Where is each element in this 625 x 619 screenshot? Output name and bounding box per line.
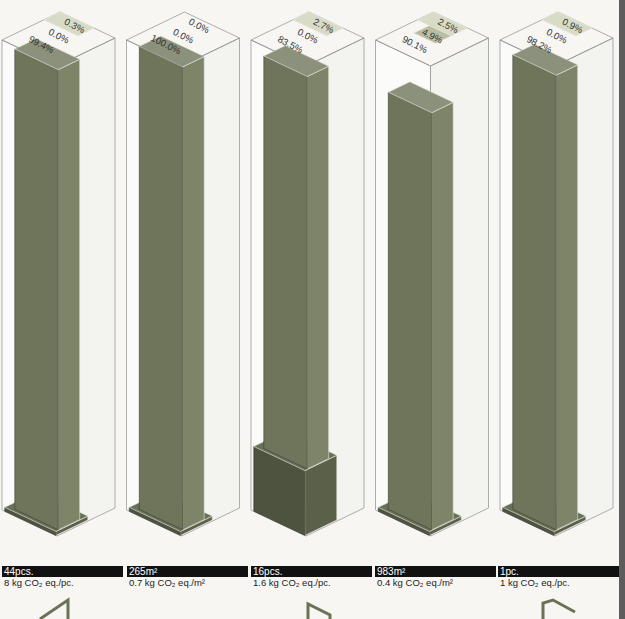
column-5: 0.9%98.2%0.0%0.9%	[500, 12, 613, 536]
main-segment-left-face	[513, 55, 556, 530]
window-frame-icon	[40, 600, 68, 619]
main-segment-right-face	[556, 65, 577, 530]
quantity-label: 265m²	[127, 566, 248, 577]
quantity-label: 16pcs.	[251, 566, 372, 577]
main-segment	[388, 82, 453, 530]
door-icon	[308, 604, 330, 619]
panel-icon	[543, 600, 575, 619]
emission-factor-label: 0.7 kg CO₂ eq./m²	[127, 577, 248, 589]
quantity-label: 44pcs.	[2, 566, 123, 577]
column-3: 13.8%83.5%0.0%2.7%	[251, 12, 364, 536]
main-segment	[15, 39, 80, 530]
main-segment	[513, 44, 578, 530]
main-segment-right-face	[58, 59, 79, 530]
quantity-label: 983m²	[375, 566, 496, 577]
column-info-2: 265m² 0.7 kg CO₂ eq./m²	[127, 566, 248, 589]
column-info-1: 44pcs. 8 kg CO₂ eq./pc.	[2, 566, 123, 589]
main-segment-left-face	[388, 92, 431, 530]
main-segment-left-face	[264, 56, 307, 469]
emission-factor-label: 8 kg CO₂ eq./pc.	[2, 577, 123, 589]
emission-factor-label: 1 kg CO₂ eq./pc.	[498, 577, 619, 589]
column-4: 2.5%90.1%4.9%2.5%	[376, 12, 489, 536]
isometric-chart: 0.3%99.4%0.0%0.3%0.0%100.0%0.0%0.0%13.8%…	[0, 0, 625, 619]
column-info-3: 16pcs. 1.6 kg CO₂ eq./pc.	[251, 566, 372, 589]
column-1: 0.3%99.4%0.0%0.3%	[2, 12, 115, 536]
main-segment-right-face	[432, 102, 453, 529]
main-segment-left-face	[15, 49, 58, 530]
column-info-4: 983m² 0.4 kg CO₂ eq./m²	[375, 566, 496, 589]
column-2: 0.0%100.0%0.0%0.0%	[127, 12, 240, 536]
emission-factor-label: 1.6 kg CO₂ eq./pc.	[251, 577, 372, 589]
main-segment	[139, 36, 204, 530]
main-segment	[264, 46, 329, 469]
quantity-label: 1pc.	[498, 566, 619, 577]
main-segment-right-face	[183, 57, 204, 530]
emission-factor-label: 0.4 kg CO₂ eq./m²	[375, 577, 496, 589]
page-edge	[619, 0, 625, 619]
main-segment-right-face	[307, 66, 328, 469]
column-info-5: 1pc. 1 kg CO₂ eq./pc.	[498, 566, 619, 589]
main-segment-left-face	[139, 46, 182, 529]
